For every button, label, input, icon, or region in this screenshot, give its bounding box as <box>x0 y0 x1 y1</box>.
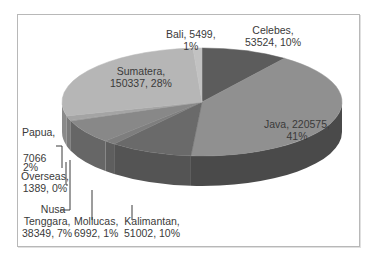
label-mollucas-line1: Mollucas, <box>74 215 118 227</box>
label-celebes-line1: Celebes, <box>245 24 301 36</box>
label-sumatera-line1: Sumatera, <box>110 65 172 77</box>
label-nusa-tenggara: Nusa Tenggara, 38349, 7% <box>22 203 72 239</box>
label-bali: Bali, 5499, 1% <box>166 28 216 52</box>
label-java: Java, 220575, 41% <box>264 118 330 142</box>
label-overseas-line2: 1389, 0% <box>21 182 69 194</box>
label-sumatera: Sumatera, 150337, 28% <box>110 65 172 89</box>
label-kalimantan: Kalimantan, 51002, 10% <box>124 215 180 239</box>
label-mollucas: Mollucas, 6992, 1% <box>74 215 118 239</box>
label-papua: Papua, <box>22 126 55 138</box>
label-bali-line1: Bali, 5499, <box>166 28 216 40</box>
label-kalimantan-line1: Kalimantan, <box>124 215 180 227</box>
label-java-line2: 41% <box>264 130 330 142</box>
label-kalimantan-line2: 51002, 10% <box>124 227 180 239</box>
label-sumatera-line2: 150337, 28% <box>110 77 172 89</box>
label-overseas-line1: Overseas, <box>21 170 69 182</box>
label-java-line1: Java, 220575, <box>264 118 330 130</box>
label-nusa-line2: Tenggara, <box>22 215 72 227</box>
label-celebes: Celebes, 53524, 10% <box>245 24 301 48</box>
label-overseas: Overseas, 1389, 0% <box>21 170 69 194</box>
label-nusa-line3: 38349, 7% <box>22 227 72 239</box>
label-bali-line2: 1% <box>166 40 216 52</box>
pie-side-overseas <box>70 120 71 151</box>
pie-side-mollucas <box>105 141 114 174</box>
label-celebes-line2: 53524, 10% <box>245 36 301 48</box>
label-mollucas-line2: 6992, 1% <box>74 227 118 239</box>
label-papua-line1: Papua, <box>22 126 55 138</box>
label-nusa-line1: Nusa <box>22 203 72 215</box>
leader-line-papua <box>56 146 62 168</box>
pie-side-papua <box>67 116 70 150</box>
